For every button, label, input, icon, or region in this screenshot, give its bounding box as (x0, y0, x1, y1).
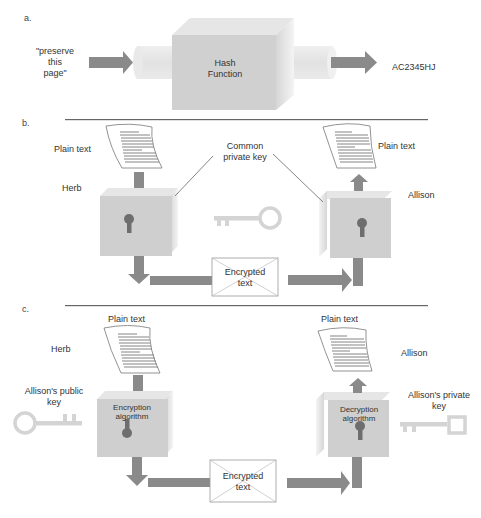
arrow-right-icon (287, 471, 350, 495)
hash-function-line: Function (190, 69, 260, 80)
plain-text-label-right: Plain text (321, 314, 358, 325)
key-pointer-line-left (175, 156, 213, 196)
encrypted-text-label: Encrypted text (210, 471, 276, 493)
key-label-line: private key (210, 152, 280, 163)
envelope-line: Encrypted (210, 471, 276, 482)
section-label-a: a. (24, 13, 32, 23)
decryption-algorithm-label: Decryption algorithm (327, 405, 391, 423)
input-arrow-icon (89, 51, 133, 74)
hash-function-label: Hash Function (190, 58, 260, 80)
plain-text-label-right: Plain text (378, 141, 415, 152)
section-divider (65, 305, 428, 306)
plain-text-label-left: Plain text (54, 144, 91, 155)
public-key-label: Allison's public key (14, 386, 94, 408)
sender-label: Herb (51, 344, 71, 355)
receiver-label: Allison (408, 190, 435, 201)
section-divider (65, 119, 428, 120)
envelope-line: text (210, 482, 276, 493)
private-key-line: key (398, 401, 480, 412)
plain-text-document-icon-left (106, 124, 162, 168)
hash-input-line: page" (30, 68, 80, 79)
hash-input-line: this (30, 57, 80, 68)
private-key-icon (400, 417, 465, 433)
enc-box-line: Encryption (99, 403, 165, 412)
arrow-right-bar (148, 478, 210, 487)
arrow-right-icon (288, 268, 352, 292)
encryption-algorithm-box-icon (97, 391, 173, 457)
hash-input-text: "preserve this page" (30, 46, 80, 79)
encrypt-lockbox-icon (100, 188, 178, 256)
arrow-up-icon (349, 378, 367, 393)
private-key-icon (214, 208, 280, 228)
key-label-line: Common (210, 141, 280, 152)
dec-box-line: algorithm (327, 414, 391, 423)
plain-text-document-icon-left (104, 326, 160, 374)
input-pipe-icon (133, 46, 178, 79)
decryption-algorithm-box-icon (316, 392, 390, 457)
plain-text-document-icon-right (318, 328, 372, 371)
public-key-icon (15, 413, 82, 433)
plain-text-document-icon-right (323, 124, 376, 168)
arrow-down-icon (128, 256, 150, 284)
public-key-line: Allison's public (14, 386, 94, 397)
arrow-right-bar (150, 276, 212, 285)
private-key-line: Allison's private (398, 390, 480, 401)
plain-text-label-left: Plain text (108, 314, 145, 325)
envelope-line: text (212, 278, 278, 289)
enc-box-line: algorithm (99, 412, 165, 421)
section-label-c: c. (22, 304, 29, 314)
public-key-line: key (14, 397, 94, 408)
decrypt-lockbox-icon (319, 191, 392, 258)
private-key-label: Allison's private key (398, 390, 480, 412)
hash-input-line: "preserve (30, 46, 80, 57)
key-pointer-line-right (273, 154, 323, 202)
section-label-b: b. (22, 118, 30, 128)
envelope-line: Encrypted (212, 267, 278, 278)
encryption-algorithm-label: Encryption algorithm (99, 403, 165, 421)
dec-box-line: Decryption (327, 405, 391, 414)
sender-label: Herb (62, 183, 82, 194)
common-private-key-label: Common private key (210, 141, 280, 163)
hash-function-line: Hash (190, 58, 260, 69)
arrow-down-icon (126, 457, 148, 486)
hash-output-text: AC2345HJ (392, 62, 436, 73)
encrypted-text-label: Encrypted text (212, 267, 278, 289)
output-arrow-icon (331, 51, 377, 74)
receiver-label: Allison (401, 348, 428, 359)
arrow-up-icon (350, 174, 368, 191)
